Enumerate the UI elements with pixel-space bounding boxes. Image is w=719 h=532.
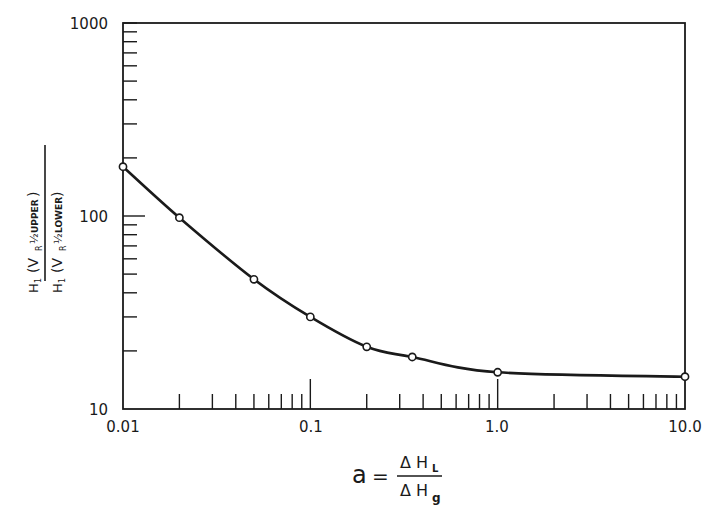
x-tick-0.1: 0.1 xyxy=(299,418,323,436)
y-axis-label: H 1 (V R ½ UPPER ) H 1 (V R ½ LOWER ) xyxy=(25,145,68,293)
data-point-marker xyxy=(681,373,688,380)
x-tick-labels: 0.01 0.1 1.0 10.0 xyxy=(106,418,701,436)
series-line xyxy=(123,167,685,377)
y-label-den-h: H xyxy=(50,283,65,293)
y-label-num-v: (V xyxy=(25,258,41,273)
y-label-num-h-sub: 1 xyxy=(34,278,43,283)
plot-frame xyxy=(123,23,685,409)
x-label-denominator: Δ H xyxy=(400,481,428,500)
x-label-equals: = xyxy=(372,464,389,488)
y-label-num-tag: UPPER xyxy=(30,199,40,233)
y-label-den-v-sub: R xyxy=(59,245,68,251)
y-tick-1000: 1000 xyxy=(70,15,108,33)
y-tick-labels: 1000 100 10 xyxy=(70,15,108,419)
log-log-chart: 1000 100 10 0.01 0.1 1.0 10.0 a = Δ H L … xyxy=(0,0,719,532)
data-point-marker xyxy=(250,276,257,283)
x-label-lhs: a xyxy=(352,461,367,489)
axis-ticks xyxy=(123,23,676,409)
y-tick-10: 10 xyxy=(89,401,108,419)
y-label-num-half: ½ xyxy=(28,233,41,244)
x-tick-10.0: 10.0 xyxy=(668,418,701,436)
data-markers xyxy=(119,163,688,380)
y-label-num-v-sub: R xyxy=(35,245,44,251)
y-label-num-h: H xyxy=(26,283,41,293)
data-curve xyxy=(123,167,685,377)
y-label-den-v: (V xyxy=(49,258,65,273)
data-point-marker xyxy=(409,353,416,360)
data-point-marker xyxy=(494,369,501,376)
y-tick-100: 100 xyxy=(79,208,108,226)
y-label-num-close: ) xyxy=(25,192,41,197)
data-point-marker xyxy=(307,313,314,320)
x-label-numerator: Δ H xyxy=(400,453,428,472)
data-point-marker xyxy=(119,163,126,170)
x-tick-1.0: 1.0 xyxy=(485,418,509,436)
y-label-denominator: H 1 (V R ½ LOWER ) xyxy=(49,192,68,293)
x-tick-0.01: 0.01 xyxy=(106,418,139,436)
y-label-numerator: H 1 (V R ½ UPPER ) xyxy=(25,192,44,293)
x-axis-label: a = Δ H L Δ H g xyxy=(352,453,442,505)
data-point-marker xyxy=(363,343,370,350)
y-label-den-half: ½ xyxy=(52,233,65,244)
data-point-marker xyxy=(176,214,183,221)
y-label-den-tag: LOWER xyxy=(54,197,64,233)
y-label-den-close: ) xyxy=(49,192,65,197)
y-label-den-h-sub: 1 xyxy=(58,278,67,283)
x-label-denominator-sub: g xyxy=(432,491,441,505)
x-label-numerator-sub: L xyxy=(432,463,439,474)
plot-border xyxy=(123,23,685,409)
